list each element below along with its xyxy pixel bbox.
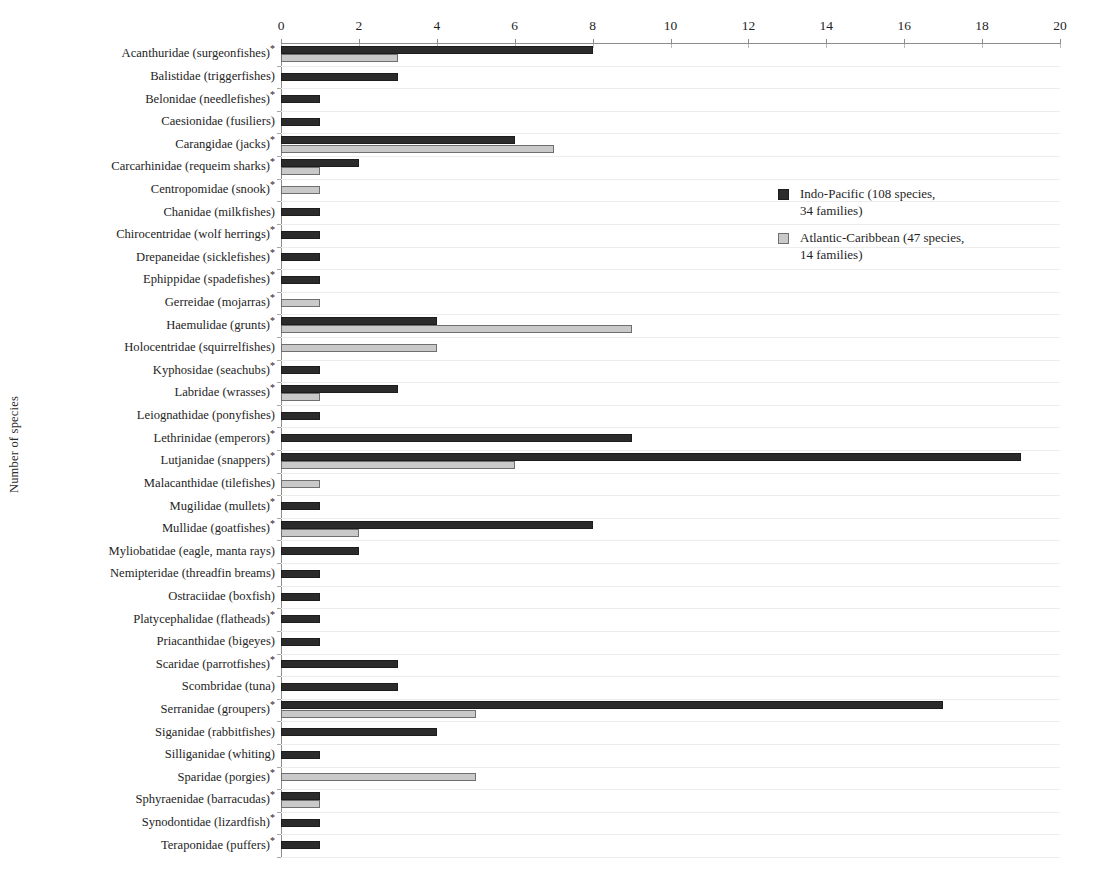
y-axis-tick [277, 133, 281, 134]
bar-group[interactable] [281, 563, 1060, 586]
bar-indo-pacific[interactable] [281, 751, 320, 759]
bar-group[interactable] [281, 314, 1060, 337]
bar-indo-pacific[interactable] [281, 570, 320, 578]
bar-group[interactable] [281, 654, 1060, 677]
y-axis-tick [277, 518, 281, 519]
bar-indo-pacific[interactable] [281, 547, 359, 555]
bar-group[interactable] [281, 88, 1060, 111]
bar-indo-pacific[interactable] [281, 208, 320, 216]
y-axis-tick [277, 360, 281, 361]
bar-group[interactable] [281, 518, 1060, 541]
bar-group[interactable] [281, 382, 1060, 405]
bar-group[interactable] [281, 540, 1060, 563]
y-axis-tick [277, 405, 281, 406]
bar-atlantic-caribbean[interactable] [281, 54, 398, 62]
bar-group[interactable] [281, 133, 1060, 156]
bar-group[interactable] [281, 631, 1060, 654]
bar-group[interactable] [281, 156, 1060, 179]
y-axis-tick [277, 676, 281, 677]
y-axis-category-label: Drepaneidae (sicklefishes)* [25, 251, 275, 264]
bar-indo-pacific[interactable] [281, 841, 320, 849]
y-axis-category-label: Labridae (wrasses)* [25, 386, 275, 399]
bar-group[interactable] [281, 744, 1060, 767]
bar-atlantic-caribbean[interactable] [281, 393, 320, 401]
bar-group[interactable] [281, 427, 1060, 450]
bar-atlantic-caribbean[interactable] [281, 325, 632, 333]
bar-indo-pacific[interactable] [281, 276, 320, 284]
y-axis-tick [277, 789, 281, 790]
y-axis-category-label: Platycephalidae (flatheads)* [25, 613, 275, 626]
bar-group[interactable] [281, 292, 1060, 315]
y-axis-tick [277, 66, 281, 67]
bar-group[interactable] [281, 43, 1060, 66]
legend-item[interactable]: Atlantic-Caribbean (47 species,14 famili… [778, 230, 1078, 263]
bar-group[interactable] [281, 111, 1060, 134]
footnote-asterisk: * [270, 224, 275, 235]
bar-atlantic-caribbean[interactable] [281, 299, 320, 307]
bar-group[interactable] [281, 586, 1060, 609]
bar-indo-pacific[interactable] [281, 253, 320, 261]
bar-indo-pacific[interactable] [281, 385, 398, 393]
bar-indo-pacific[interactable] [281, 118, 320, 126]
bar-group[interactable] [281, 405, 1060, 428]
bar-atlantic-caribbean[interactable] [281, 167, 320, 175]
bar-indo-pacific[interactable] [281, 453, 1021, 461]
bar-atlantic-caribbean[interactable] [281, 344, 437, 352]
bar-indo-pacific[interactable] [281, 593, 320, 601]
bar-atlantic-caribbean[interactable] [281, 186, 320, 194]
bar-indo-pacific[interactable] [281, 615, 320, 623]
bar-indo-pacific[interactable] [281, 728, 437, 736]
bar-indo-pacific[interactable] [281, 136, 515, 144]
bar-group[interactable] [281, 676, 1060, 699]
bar-indo-pacific[interactable] [281, 231, 320, 239]
bar-indo-pacific[interactable] [281, 73, 398, 81]
bar-group[interactable] [281, 495, 1060, 518]
bar-indo-pacific[interactable] [281, 46, 593, 54]
bar-atlantic-caribbean[interactable] [281, 800, 320, 808]
bar-atlantic-caribbean[interactable] [281, 773, 476, 781]
bar-group[interactable] [281, 812, 1060, 835]
bar-indo-pacific[interactable] [281, 701, 943, 709]
bar-group[interactable] [281, 360, 1060, 383]
bar-group[interactable] [281, 66, 1060, 89]
bar-atlantic-caribbean[interactable] [281, 710, 476, 718]
bar-group[interactable] [281, 450, 1060, 473]
bar-group[interactable] [281, 721, 1060, 744]
bar-indo-pacific[interactable] [281, 792, 320, 800]
bar-indo-pacific[interactable] [281, 660, 398, 668]
y-axis-category-label: Chanidae (milkfishes) [25, 206, 275, 219]
bar-indo-pacific[interactable] [281, 317, 437, 325]
bar-group[interactable] [281, 608, 1060, 631]
bar-indo-pacific[interactable] [281, 95, 320, 103]
bar-atlantic-caribbean[interactable] [281, 480, 320, 488]
bar-atlantic-caribbean[interactable] [281, 145, 554, 153]
bar-indo-pacific[interactable] [281, 638, 320, 646]
footnote-asterisk: * [270, 382, 275, 393]
x-axis-tick-label: 10 [664, 18, 678, 34]
bar-group[interactable] [281, 767, 1060, 790]
bar-atlantic-caribbean[interactable] [281, 461, 515, 469]
footnote-asterisk: * [270, 789, 275, 800]
bar-indo-pacific[interactable] [281, 434, 632, 442]
y-axis-tick [277, 699, 281, 700]
bar-indo-pacific[interactable] [281, 366, 320, 374]
bar-atlantic-caribbean[interactable] [281, 529, 359, 537]
y-axis-tick [277, 563, 281, 564]
bar-indo-pacific[interactable] [281, 502, 320, 510]
legend-item[interactable]: Indo-Pacific (108 species,34 families) [778, 186, 1078, 219]
y-axis-tick [277, 857, 281, 858]
bar-group[interactable] [281, 473, 1060, 496]
bar-group[interactable] [281, 789, 1060, 812]
bar-group[interactable] [281, 834, 1060, 857]
bar-group[interactable] [281, 699, 1060, 722]
bar-group[interactable] [281, 337, 1060, 360]
y-axis-category-label: Kyphosidae (seachubs)* [25, 364, 275, 377]
bar-indo-pacific[interactable] [281, 819, 320, 827]
y-axis-tick [277, 608, 281, 609]
bar-indo-pacific[interactable] [281, 412, 320, 420]
bar-indo-pacific[interactable] [281, 683, 398, 691]
footnote-asterisk: * [270, 699, 275, 710]
y-axis-category-label: Priacanthidae (bigeyes) [25, 635, 275, 648]
bar-indo-pacific[interactable] [281, 159, 359, 167]
bar-indo-pacific[interactable] [281, 521, 593, 529]
